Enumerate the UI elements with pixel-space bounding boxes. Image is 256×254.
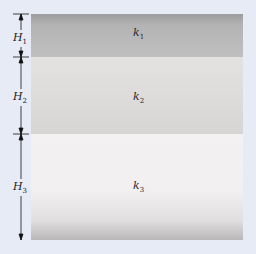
layer-1: k1 — [31, 14, 243, 57]
layer-2: k2 — [31, 57, 243, 134]
layer-1-conductivity-label: k1 — [133, 26, 144, 41]
layer-3: k3 — [31, 134, 243, 240]
thickness-label-h1: H1 — [13, 30, 27, 47]
layer-2-conductivity-label: k2 — [133, 90, 144, 105]
thickness-label-h3: H3 — [13, 179, 27, 196]
soil-profile: k1 k2 k3 — [31, 14, 243, 240]
layer-3-conductivity-label: k3 — [133, 179, 144, 194]
thickness-label-h2: H2 — [13, 89, 27, 106]
